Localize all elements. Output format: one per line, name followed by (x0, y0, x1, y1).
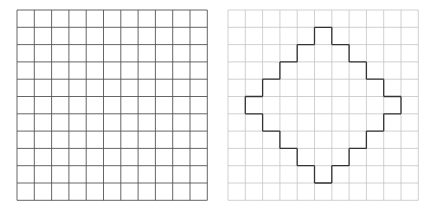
right-grid (228, 10, 418, 200)
left-grid (17, 10, 207, 200)
figure-canvas (0, 0, 434, 216)
diamond-staircase-outline (245, 27, 401, 183)
